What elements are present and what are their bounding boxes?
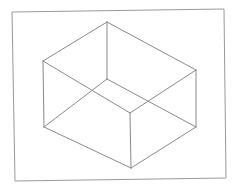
edge-top_right-top_front	[130, 70, 196, 113]
edge-top_back-top_right	[107, 22, 196, 70]
border-frame	[12, 9, 226, 181]
diagram-canvas	[0, 0, 239, 190]
edge-bottom_right-bottom_front	[131, 127, 196, 168]
cuboid-wireframe-drawing	[0, 0, 239, 190]
cuboid-edges	[43, 22, 196, 168]
edge-bottom_left-bottom_back	[44, 79, 107, 127]
edge-bottom_right-bottom_back	[107, 79, 196, 127]
edge-top_back-top_left	[43, 22, 107, 61]
edge-bottom_left-bottom_front	[44, 127, 131, 168]
edge-top_front-bottom_front	[130, 113, 131, 168]
edge-top_left-top_front	[43, 61, 130, 113]
edge-top_left-bottom_left	[43, 61, 44, 127]
